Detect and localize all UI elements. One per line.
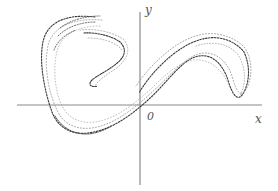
origin-label: 0 bbox=[147, 111, 154, 122]
x-axis-label: x bbox=[255, 113, 262, 125]
attractor-plot bbox=[0, 0, 278, 191]
y-axis-label: y bbox=[145, 4, 152, 16]
